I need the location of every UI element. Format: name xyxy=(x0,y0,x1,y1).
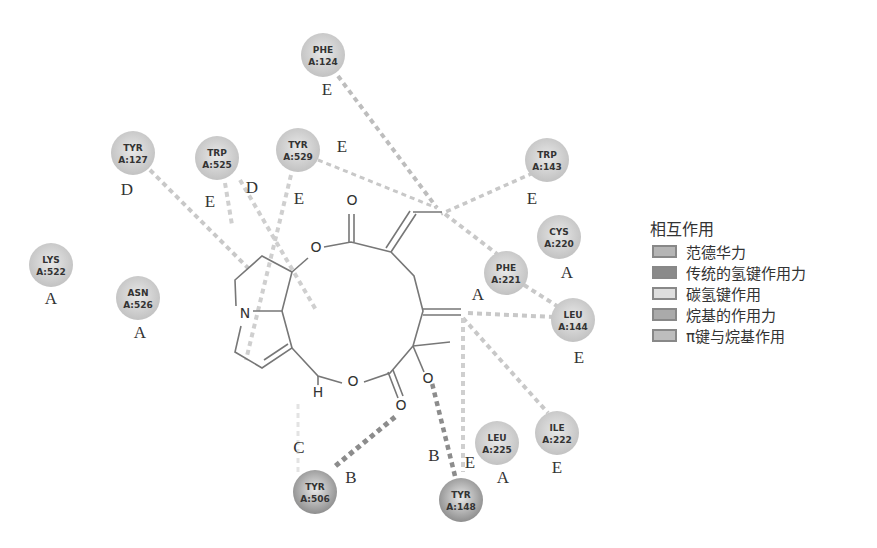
residue-circle xyxy=(551,298,595,342)
interaction-type-label: A xyxy=(497,468,510,487)
residue-node[interactable]: PHEA:124 xyxy=(301,33,345,77)
interaction-diagram: OONHOOO PHEA:124TYRA:127TRPA:525TYRA:529… xyxy=(0,0,877,548)
residue-id: A:525 xyxy=(202,160,232,170)
residue-node[interactable]: TYRA:529 xyxy=(276,128,320,172)
interaction-type-label: C xyxy=(293,438,304,457)
legend-label: 传统的氢键作用力 xyxy=(686,262,806,283)
legend-label: 范德华力 xyxy=(686,241,746,262)
interaction-type-label: E xyxy=(574,348,584,367)
legend-swatch-hbond xyxy=(652,266,677,279)
bond-path xyxy=(292,258,308,272)
residue-id: A:522 xyxy=(36,267,66,277)
residue-name: LEU xyxy=(563,310,582,320)
residue-id: A:144 xyxy=(558,322,588,332)
residue-node[interactable]: ILEA:222 xyxy=(535,411,579,455)
bond-path xyxy=(349,214,354,242)
residue-id: A:124 xyxy=(308,57,338,67)
interaction-type-label: A xyxy=(561,263,574,282)
interaction-type-label: A xyxy=(45,289,58,308)
bond-path xyxy=(386,211,442,252)
residue-node[interactable]: CYSA:220 xyxy=(537,215,581,259)
residue-name: TYR xyxy=(451,490,471,500)
residue-id: A:506 xyxy=(300,494,330,504)
atom-labels: OONHOOO xyxy=(238,192,435,413)
residue-circle xyxy=(439,478,483,522)
residue-circle xyxy=(29,243,73,287)
legend-label: π键与烷基作用 xyxy=(686,325,785,346)
bond-path xyxy=(388,370,403,398)
interaction-type-label: E xyxy=(322,80,332,99)
residue-nodes: PHEA:124TYRA:127TRPA:525TYRA:529TRPA:143… xyxy=(29,33,595,522)
legend-label: 碳氢键作用 xyxy=(686,283,761,304)
interaction-line xyxy=(441,173,533,214)
bond-path xyxy=(264,344,288,360)
atom-label: O xyxy=(395,397,406,413)
interaction-type-label: A xyxy=(134,323,147,342)
bond-path xyxy=(423,309,461,315)
bond-path xyxy=(364,346,413,382)
interaction-line xyxy=(333,417,395,468)
residue-id: A:526 xyxy=(123,300,153,310)
legend-swatch-vdw xyxy=(652,245,677,258)
interaction-line xyxy=(240,180,316,310)
residue-id: A:222 xyxy=(542,435,572,445)
residue-node[interactable]: TRPA:525 xyxy=(195,136,239,180)
residue-node[interactable]: TYRA:506 xyxy=(293,470,337,514)
residue-name: ASN xyxy=(128,288,149,298)
residue-circle xyxy=(293,470,337,514)
interaction-line xyxy=(463,318,548,413)
residue-node[interactable]: TYRA:127 xyxy=(111,131,155,175)
legend: 相互作用 范德华力 传统的氢键作用力 碳氢键作用 烷基的作用力 π键与烷基作用 xyxy=(650,219,806,346)
atom-label: O xyxy=(346,192,357,208)
interaction-line xyxy=(225,183,232,225)
residue-circle xyxy=(111,131,155,175)
legend-item-alkyl: 烷基的作用力 xyxy=(650,304,806,325)
bond-path xyxy=(324,242,391,252)
legend-swatch-pi-alkyl xyxy=(652,329,677,342)
residue-id: A:127 xyxy=(118,155,148,165)
residue-node[interactable]: PHEA:221 xyxy=(484,251,528,295)
residue-id: A:225 xyxy=(482,445,512,455)
residue-name: TRP xyxy=(207,148,227,158)
interaction-type-label: B xyxy=(428,446,439,465)
residue-circle xyxy=(484,251,528,295)
legend-item-hbond: 传统的氢键作用力 xyxy=(650,262,806,283)
residue-node[interactable]: ASNA:526 xyxy=(116,276,160,320)
residue-node[interactable]: TRPA:143 xyxy=(525,138,569,182)
legend-item-ch-bond: 碳氢键作用 xyxy=(650,283,806,304)
residue-circle xyxy=(195,136,239,180)
residue-name: LYS xyxy=(42,255,59,265)
legend-swatch-alkyl xyxy=(652,308,677,321)
residue-name: PHE xyxy=(496,263,516,273)
residue-circle xyxy=(116,276,160,320)
residue-circle xyxy=(475,421,519,465)
residue-name: ILE xyxy=(549,423,564,433)
residue-circle xyxy=(535,411,579,455)
residue-name: TYR xyxy=(288,140,308,150)
residue-name: PHE xyxy=(313,45,333,55)
atom-label: O xyxy=(310,239,321,255)
atom-label: O xyxy=(347,373,358,389)
residue-id: A:148 xyxy=(446,502,476,512)
legend-item-vdw: 范德华力 xyxy=(650,241,806,262)
bond-path xyxy=(292,348,342,383)
residue-node[interactable]: LEUA:144 xyxy=(551,298,595,342)
interaction-type-label: E xyxy=(337,137,347,156)
residue-name: TYR xyxy=(305,482,325,492)
bond-path xyxy=(413,342,450,346)
residue-node[interactable]: LEUA:225 xyxy=(475,421,519,465)
interaction-type-label: E xyxy=(527,189,537,208)
residue-node[interactable]: TYRA:148 xyxy=(439,478,483,522)
interaction-type-label: E xyxy=(552,458,562,477)
residue-circle xyxy=(537,215,581,259)
interaction-type-label: D xyxy=(121,180,133,199)
interaction-line xyxy=(150,170,248,268)
residue-node[interactable]: LYSA:522 xyxy=(29,243,73,287)
interaction-type-label: E xyxy=(205,192,215,211)
legend-swatch-ch-bond xyxy=(652,287,677,300)
interaction-line xyxy=(445,214,497,254)
residue-id: A:221 xyxy=(491,275,521,285)
interaction-type-label: B xyxy=(345,468,356,487)
legend-item-pi-alkyl: π键与烷基作用 xyxy=(650,325,806,346)
legend-title: 相互作用 xyxy=(650,219,806,241)
